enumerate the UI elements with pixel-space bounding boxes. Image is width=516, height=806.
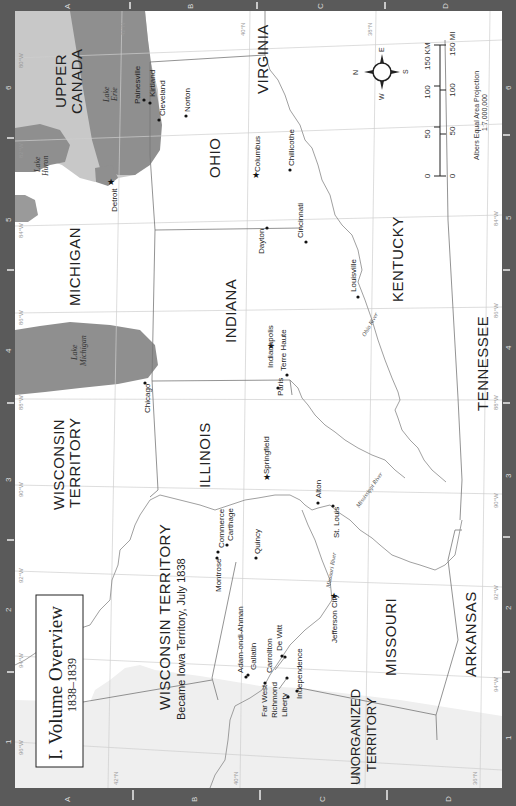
- svg-text:Commerce: Commerce: [217, 508, 226, 548]
- svg-text:50: 50: [423, 129, 432, 138]
- svg-text:36°N: 36°N: [472, 772, 478, 785]
- label-canada: CANADA: [68, 48, 85, 114]
- label-unorganized-1: UNORGANIZED: [348, 689, 363, 785]
- svg-text:Alton: Alton: [314, 480, 323, 498]
- svg-text:Adam-ondi-Ahman: Adam-ondi-Ahman: [236, 606, 245, 673]
- svg-text:St. Louis: St. Louis: [332, 507, 341, 538]
- svg-text:W: W: [378, 93, 385, 100]
- svg-text:Lake: Lake: [70, 344, 79, 361]
- svg-text:150 MI: 150 MI: [448, 32, 457, 56]
- svg-text:A: A: [63, 796, 72, 802]
- svg-text:Carrollton: Carrollton: [265, 638, 274, 673]
- svg-text:84°W: 84°W: [493, 211, 499, 226]
- alton-marker: [316, 501, 319, 504]
- label-illinois: ILLINOIS: [196, 422, 213, 488]
- svg-text:De Witt: De Witt: [275, 624, 284, 651]
- svg-text:Indianapolis: Indianapolis: [266, 325, 275, 368]
- svg-text:Far West: Far West: [260, 684, 269, 717]
- svg-text:Huron: Huron: [41, 155, 50, 177]
- cleveland-marker: [157, 118, 160, 121]
- svg-text:Independence: Independence: [295, 648, 304, 699]
- adam-ondi-ahman-marker: [244, 675, 247, 678]
- svg-text:Paris: Paris: [276, 378, 285, 396]
- svg-text:42°N: 42°N: [113, 772, 119, 785]
- kirtland-marker: [148, 101, 151, 104]
- label-upper: UPPER: [52, 54, 69, 108]
- svg-text:84°W: 84°W: [18, 223, 24, 238]
- svg-text:Cincinnati: Cincinnati: [296, 203, 305, 238]
- label-iowa-1: WISCONSIN TERRITORY: [156, 524, 173, 710]
- map-subtitle: 1838–1839: [65, 658, 79, 712]
- svg-text:Columbus: Columbus: [253, 136, 262, 172]
- svg-text:94°W: 94°W: [493, 677, 499, 692]
- svg-text:A: A: [63, 3, 72, 9]
- svg-text:92°W: 92°W: [493, 585, 499, 600]
- svg-text:N: N: [352, 70, 359, 75]
- svg-text:Louisville: Louisville: [349, 259, 358, 292]
- label-arkansas: ARKANSAS: [462, 591, 479, 677]
- label-unorganized-2: TERRITORY: [364, 697, 379, 772]
- label-kentucky: KENTUCKY: [389, 216, 406, 302]
- svg-text:4: 4: [4, 348, 13, 353]
- svg-text:42°N: 42°N: [120, 23, 126, 36]
- svg-text:D: D: [441, 3, 450, 9]
- commerce-marker: [216, 550, 219, 553]
- de-witt-marker: [280, 654, 283, 657]
- svg-text:2: 2: [4, 607, 13, 612]
- svg-text:40°N: 40°N: [233, 772, 239, 785]
- label-wisconsin-2: TERRITORY: [66, 417, 83, 508]
- label-missouri: MISSOURI: [382, 598, 399, 676]
- svg-text:Erie: Erie: [110, 87, 119, 102]
- svg-text:90°W: 90°W: [493, 493, 499, 508]
- svg-text:0: 0: [448, 173, 457, 178]
- svg-text:Gallatin: Gallatin: [249, 643, 258, 670]
- svg-text:Painesville: Painesville: [133, 65, 142, 104]
- svg-text:2: 2: [504, 605, 513, 610]
- svg-text:92°W: 92°W: [18, 568, 24, 583]
- svg-text:40°N: 40°N: [240, 23, 246, 36]
- svg-text:96°W: 96°W: [18, 740, 24, 755]
- svg-text:Cleveland: Cleveland: [158, 80, 167, 116]
- svg-text:B: B: [186, 4, 195, 9]
- svg-text:Carthage: Carthage: [226, 508, 235, 541]
- label-michigan: MICHIGAN: [66, 227, 83, 306]
- svg-text:Terre Haute: Terre Haute: [279, 329, 288, 371]
- svg-text:86°W: 86°W: [493, 303, 499, 318]
- svg-text:88°W: 88°W: [493, 395, 499, 410]
- svg-text:D: D: [444, 796, 453, 802]
- svg-text:90°W: 90°W: [18, 482, 24, 497]
- far-west-marker: [263, 681, 266, 684]
- svg-text:100: 100: [448, 83, 457, 97]
- detroit-star: ★: [107, 177, 115, 187]
- svg-text:Albers Equal Area Projection: Albers Equal Area Projection: [473, 71, 481, 160]
- svg-text:Springfield: Springfield: [262, 436, 271, 474]
- svg-text:Liberty: Liberty: [280, 693, 289, 717]
- label-indiana: INDIANA: [222, 279, 239, 343]
- svg-text:Kirtland: Kirtland: [148, 70, 157, 97]
- svg-text:1: 1: [504, 735, 513, 740]
- louisville-marker: [356, 295, 359, 298]
- svg-text:0: 0: [423, 173, 432, 178]
- svg-text:88°W: 88°W: [18, 395, 24, 410]
- painesville-marker: [142, 98, 145, 101]
- terre-haute-marker: [285, 373, 288, 376]
- svg-text:Dayton: Dayton: [257, 229, 266, 254]
- svg-text:Richmond: Richmond: [270, 682, 279, 718]
- svg-text:Montrose: Montrose: [214, 558, 223, 592]
- svg-text:4: 4: [504, 345, 513, 350]
- label-wisconsin-1: WISCONSIN: [50, 419, 67, 510]
- svg-text:C: C: [316, 3, 325, 9]
- label-tennessee: TENNESSEE: [474, 316, 491, 411]
- svg-text:6: 6: [4, 85, 13, 90]
- svg-text:100: 100: [423, 85, 432, 99]
- svg-text:6: 6: [504, 85, 513, 90]
- svg-text:5: 5: [504, 215, 513, 220]
- svg-text:82°W: 82°W: [18, 143, 24, 158]
- norton-marker: [184, 114, 187, 117]
- map-canvas: A B C D A B C D 1 2 3 4 5 6 1 2 3 4 5 6 …: [0, 0, 516, 806]
- svg-text:150 KM: 150 KM: [423, 42, 432, 70]
- svg-text:E: E: [378, 47, 385, 52]
- svg-text:Norton: Norton: [183, 88, 192, 112]
- svg-text:Jefferson City: Jefferson City: [330, 594, 339, 643]
- svg-text:1: 1: [4, 739, 13, 744]
